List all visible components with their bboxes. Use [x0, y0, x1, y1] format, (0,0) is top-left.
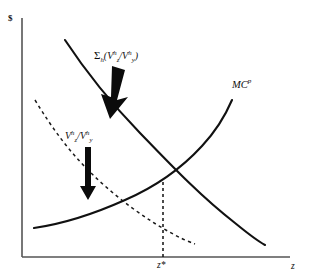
aggregate-close-paren: ) [135, 50, 138, 61]
figure-root: $ z z* Σh(Vhz/Vhy) Vhz/Vhy MCp [0, 0, 310, 280]
y-axis-label: $ [8, 14, 13, 23]
arrow-individual-icon [80, 147, 96, 200]
label-individual-mrs: Vhz/Vhy [65, 130, 93, 144]
label-marginal-cost: MCp [232, 78, 251, 90]
aggregate-v-numerator-sup: h [113, 49, 116, 56]
mc-text: MC [232, 79, 248, 90]
x-axis-label: z [291, 262, 295, 272]
mc-superscript: p [248, 77, 252, 85]
label-aggregate-mrs: Σh(Vhz/Vhy) [94, 50, 138, 64]
individual-v-numerator-sup: h [71, 129, 74, 136]
individual-v-denominator-sup: h [86, 129, 89, 136]
optimum-tick-label: z* [157, 261, 165, 271]
individual-v-denominator-sub: y [89, 136, 92, 143]
aggregate-v-denominator-sup: h [128, 49, 131, 56]
diagram-canvas [0, 0, 310, 280]
curve-aggregate-mrs [65, 40, 265, 245]
